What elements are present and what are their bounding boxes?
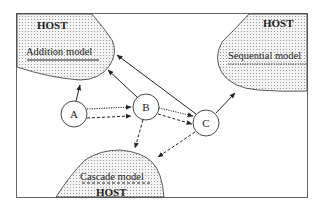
node-a-label: A (70, 108, 78, 120)
sequential-model-label: Sequential model (228, 50, 301, 61)
addition-model-label: Addition model (26, 46, 92, 57)
node-a: A (61, 101, 87, 127)
cascade-model-label: Cascade model (80, 171, 144, 182)
sequential-host-label: HOST (263, 17, 294, 29)
addition-host-label: HOST (37, 19, 68, 31)
region-addition: HOST Addition model (17, 14, 115, 80)
cascade-host-label: HOST (96, 186, 127, 198)
diagram-canvas: HOST Addition model HOST Sequential mode… (0, 0, 322, 208)
node-b-label: B (142, 101, 149, 113)
node-c-label: C (202, 117, 209, 129)
node-b: B (133, 94, 159, 120)
node-c: C (193, 110, 219, 136)
